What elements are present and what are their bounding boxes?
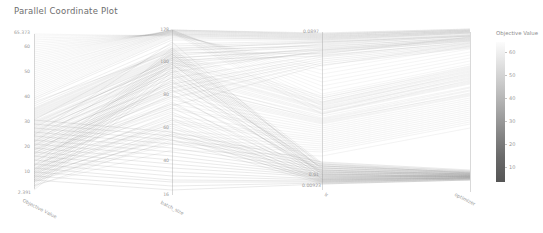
axis1-tick-50: 50 — [24, 69, 30, 74]
axis2-tick-60: 60 — [163, 125, 169, 130]
axis1-tick-20: 20 — [24, 144, 30, 149]
plot-area: 65.373 60 50 40 30 20 10 2.391 Objective… — [0, 24, 485, 202]
axis2-tick-max: 128 — [160, 27, 169, 32]
legend-tickmark — [505, 121, 507, 122]
axis2-name: batch_size — [160, 200, 185, 216]
legend-tickmark — [505, 52, 507, 53]
legend-tickmark — [505, 98, 507, 99]
axis2-tick-80: 80 — [163, 92, 169, 97]
axis1-tick-40: 40 — [24, 94, 30, 99]
axis2-tick-40: 40 — [163, 158, 169, 163]
legend-tickmark — [505, 75, 507, 76]
axis1-tick-60: 60 — [24, 44, 30, 49]
axis1-tick-30: 30 — [24, 119, 30, 124]
axis1-tick-max: 65.373 — [14, 30, 30, 35]
legend-gradient-bar — [496, 42, 505, 182]
legend-tickmark — [505, 167, 507, 168]
axis2-tick-100: 100 — [160, 59, 169, 64]
legend-tickmark — [505, 144, 507, 145]
axis1-tick-10: 10 — [24, 169, 30, 174]
polyline-bundle — [0, 24, 485, 202]
page-title: Parallel Coordinate Plot — [14, 6, 118, 16]
legend-tick-40: 40 — [509, 95, 515, 101]
axis3-tick-max: 0.0897 — [303, 29, 319, 34]
parallel-coordinate-plot: Parallel Coordinate Plot — [0, 0, 543, 233]
legend-tick-60: 60 — [509, 49, 515, 55]
legend-tick-30: 30 — [509, 118, 515, 124]
axis2-tick-min: 16 — [163, 192, 169, 197]
legend-title: Objective Value — [496, 30, 538, 36]
axis3-tick-min: 0.00923 — [302, 183, 321, 188]
legend-tick-10: 10 — [509, 164, 515, 170]
axis3-tick-001: 0.01 — [309, 172, 319, 177]
axis1-tick-min: 2.391 — [18, 190, 31, 195]
legend-tick-50: 50 — [509, 72, 515, 78]
legend-tick-20: 20 — [509, 141, 515, 147]
